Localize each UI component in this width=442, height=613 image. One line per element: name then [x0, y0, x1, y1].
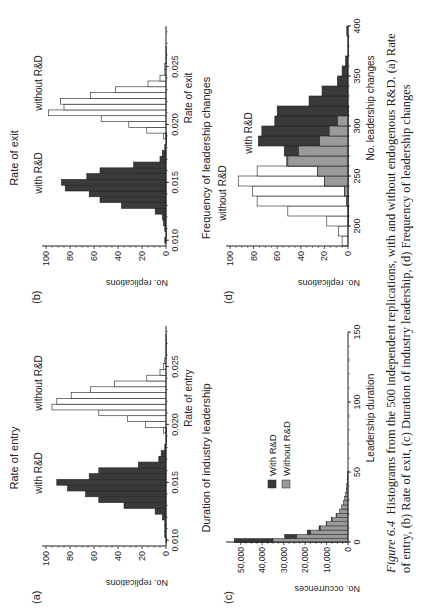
y-tick-label: 20	[319, 251, 329, 261]
chart-c: 010,00020,00030,00040,00050,000050100150…	[200, 308, 390, 608]
book-page: Rate of entry (a) No. replications 02040…	[0, 0, 442, 613]
figure-caption: Figure 6.4 Histograms from the 500 indep…	[384, 33, 414, 573]
histogram-bar	[342, 236, 348, 246]
y-tick-label: 40	[113, 251, 123, 261]
panel-b: Rate of exit (b) No. replications 020406…	[8, 8, 198, 308]
annotation-with-rd: with R&D	[243, 112, 254, 155]
histogram-bar	[298, 146, 348, 156]
histogram-bar	[124, 503, 166, 509]
y-tick-label: 60	[89, 551, 99, 561]
histogram-bar	[99, 410, 166, 416]
y-tick-label: 80	[249, 251, 259, 261]
histogram-bar	[160, 369, 166, 375]
histogram-bar	[345, 497, 348, 501]
annotation-without-rd: without R&D	[33, 355, 44, 412]
x-tick-label: 350	[352, 68, 362, 83]
panel-b-xlabel: Rate of exit	[183, 38, 194, 158]
x-tick-label: 50	[352, 467, 362, 477]
panel-a-xlabel: Rate of entry	[183, 338, 194, 458]
legend-swatch-with-rd	[268, 480, 276, 488]
histogram-bar	[57, 479, 166, 485]
histogram-bar	[257, 196, 348, 206]
y-tick-label: 100	[41, 251, 51, 266]
histogram-bar	[148, 81, 166, 87]
histogram-bar	[100, 168, 166, 174]
histogram-bar	[48, 110, 166, 116]
histogram-bar	[252, 186, 348, 196]
annotation-with-rd: with R&D	[33, 452, 44, 495]
histogram-bar	[317, 166, 348, 176]
legend-without-rd: Without R&D	[281, 421, 292, 476]
y-tick-label: 0	[161, 551, 171, 556]
histogram-bar	[129, 122, 166, 128]
y-tick-label: 30,000	[279, 547, 289, 573]
histogram-bar	[343, 501, 348, 505]
histogram-bar	[138, 462, 166, 468]
y-tick-label: 10,000	[322, 547, 332, 573]
histogram-bar	[65, 185, 166, 191]
figure-caption-text: Histograms from the 500 independent repl…	[384, 33, 413, 573]
histogram-bar	[288, 206, 348, 216]
legend-with-rd: With R&D	[267, 434, 278, 476]
histogram-bar	[147, 375, 166, 381]
histogram-bar	[324, 176, 348, 186]
histogram-bar	[116, 87, 166, 93]
x-tick-label: 150	[352, 324, 362, 339]
x-tick-label: 0.015	[170, 471, 180, 494]
annotation-with-rd: with R&D	[33, 152, 44, 195]
x-tick-label: 0.015	[170, 171, 180, 194]
histogram-bar	[329, 126, 348, 136]
histogram-bar	[162, 150, 166, 156]
histogram-bar	[60, 98, 166, 104]
y-tick-label: 80	[65, 551, 75, 561]
chart-d: 020406080100200250300350400without R&Dwi…	[200, 8, 390, 308]
y-tick-label: 0	[343, 251, 353, 256]
histogram-bar	[337, 116, 348, 126]
chart-a: 0204060801000.0100.0150.0200.025with R&D…	[8, 308, 198, 608]
panel-d-xlabel: No. leadership changes	[365, 28, 376, 188]
histogram-bar	[57, 398, 166, 404]
x-tick-label: 0.010	[170, 229, 180, 252]
histogram-bar	[62, 179, 166, 185]
histogram-bar	[162, 514, 166, 520]
x-tick-label: 250	[352, 168, 362, 183]
annotation-without-rd: without R&D	[217, 165, 228, 222]
histogram-bar	[309, 96, 348, 106]
y-tick-label: 40	[296, 251, 306, 261]
histogram-bar	[307, 530, 310, 534]
histogram-bar	[339, 226, 348, 236]
y-tick-label: 80	[65, 251, 75, 261]
histogram-bar	[64, 104, 166, 110]
y-tick-label: 0	[161, 251, 171, 256]
histogram-bar	[288, 156, 348, 166]
histogram-bar	[86, 491, 166, 497]
x-tick-label: 0.020	[170, 413, 180, 436]
panel-c: Duration of industry leadership (c) No. …	[200, 308, 390, 608]
histogram-bar	[52, 404, 166, 410]
y-tick-label: 60	[272, 251, 282, 261]
histogram-bar	[162, 214, 166, 220]
histogram-bar	[277, 106, 348, 116]
chart-b: 0204060801000.0100.0150.0200.025with R&D…	[8, 8, 198, 308]
histogram-bar	[320, 136, 348, 146]
histogram-bar	[99, 468, 166, 474]
histogram-bar	[160, 156, 166, 162]
x-tick-label: 0.025	[170, 355, 180, 378]
histogram-bar	[99, 497, 166, 503]
histogram-bar	[90, 387, 166, 393]
histogram-bar	[337, 76, 348, 86]
annotation-without-rd: without R&D	[33, 55, 44, 112]
legend-swatch-without-rd	[282, 480, 290, 488]
histogram-bar	[68, 485, 166, 491]
histogram-bar	[155, 508, 166, 514]
histogram-bar	[101, 116, 166, 122]
panel-a: Rate of entry (a) No. replications 02040…	[8, 308, 198, 608]
histogram-bar	[310, 530, 348, 534]
histogram-bar	[134, 162, 166, 168]
histogram-bar	[155, 208, 166, 214]
histogram-bar	[344, 186, 348, 196]
histogram-bar	[327, 216, 348, 226]
histogram-bar	[122, 203, 166, 209]
histogram-bar	[339, 509, 348, 513]
histogram-bar	[159, 456, 166, 462]
